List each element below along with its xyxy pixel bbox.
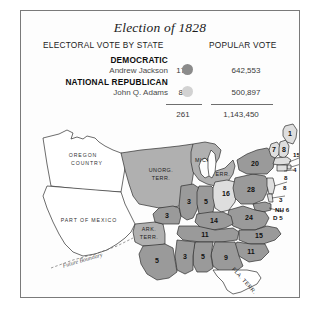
- state-new-jersey: [267, 178, 275, 194]
- electoral-total-rule: [166, 104, 202, 105]
- unorganized-territory-label-line1: UNORG.: [149, 167, 174, 173]
- callout-new-jersey: 8: [283, 184, 287, 191]
- column-header-popular-vote: POPULAR VOTE: [209, 40, 277, 50]
- callout-delaware: 3: [279, 196, 283, 203]
- figure-title: Election of 1828: [20, 20, 300, 36]
- popular-votes-jackson: 642,553: [213, 66, 279, 75]
- callout-maryland-prefix: NH 6: [275, 206, 290, 213]
- state-votes-virginia: 24: [245, 214, 253, 221]
- callout-rhode-island: 4: [293, 166, 297, 173]
- arkansas-territory-label-line2: TERR.: [140, 234, 159, 240]
- arkansas-territory-label-line1: ARK.: [142, 226, 157, 232]
- state-votes-missouri: 3: [165, 212, 169, 219]
- column-header-electoral-vote: ELECTORAL VOTE BY STATE: [43, 40, 164, 50]
- state-votes-kentucky: 14: [210, 217, 218, 224]
- state-massachusetts: [273, 157, 291, 165]
- color-swatch-national-republican: [182, 86, 193, 97]
- part-of-mexico-label: PART OF MEXICO: [61, 217, 117, 223]
- popular-total-rule: [211, 104, 273, 105]
- state-votes-maine: 1: [288, 130, 292, 137]
- state-votes-georgia: 9: [224, 254, 228, 261]
- state-votes-new-york: 20: [251, 160, 259, 167]
- unorganized-territory-label-line2: TERR.: [152, 175, 171, 181]
- popular-votes-adams: 500,897: [213, 88, 279, 97]
- oregon-country-label-line1: OREGON: [69, 152, 97, 158]
- party-label-democratic: DEMOCRATIC: [28, 55, 168, 65]
- callout-maryland: D 5: [273, 214, 283, 221]
- state-votes-ohio: 16: [222, 190, 230, 197]
- oregon-country-label-line2: COUNTRY: [71, 160, 103, 166]
- state-votes-illinois: 3: [187, 198, 191, 205]
- state-votes-vermont: 7: [272, 146, 276, 153]
- state-votes-alabama: 5: [201, 253, 205, 260]
- state-votes-pennsylvania: 28: [247, 186, 255, 193]
- party-label-national-republican: NATIONAL REPUBLICAN: [28, 77, 168, 87]
- color-swatch-democratic: [182, 64, 193, 75]
- candidate-label-jackson: Andrew Jackson: [28, 66, 168, 75]
- electoral-votes-total: 261: [170, 110, 196, 119]
- candidate-label-adams: John Q. Adams: [28, 88, 168, 97]
- state-votes-north-carolina: 15: [255, 232, 263, 239]
- election-map-figure: Election of 1828 ELECTORAL VOTE BY STATE…: [0, 0, 320, 309]
- state-votes-new-hampshire: 8: [282, 146, 286, 153]
- state-rhode-island: [287, 165, 291, 169]
- callout-connecticut: 8: [284, 174, 288, 181]
- us-election-map: OREGON COUNTRY PART OF MEXICO UNORG. TER…: [21, 120, 299, 297]
- state-votes-louisiana: 5: [155, 257, 159, 264]
- state-votes-tennessee: 11: [201, 231, 209, 238]
- popular-votes-total: 1,143,450: [208, 110, 274, 119]
- state-votes-indiana: 5: [204, 198, 208, 205]
- state-votes-mississippi: 3: [183, 253, 187, 260]
- callout-massachusetts: 15: [293, 151, 299, 158]
- state-votes-south-carolina: 11: [247, 248, 255, 255]
- state-connecticut: [277, 165, 287, 171]
